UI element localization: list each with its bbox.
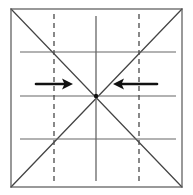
origami-crease-diagram: Origami crease-pattern square with two i… [0, 0, 193, 195]
center-intersection [94, 94, 98, 98]
diagram-canvas [0, 0, 193, 195]
